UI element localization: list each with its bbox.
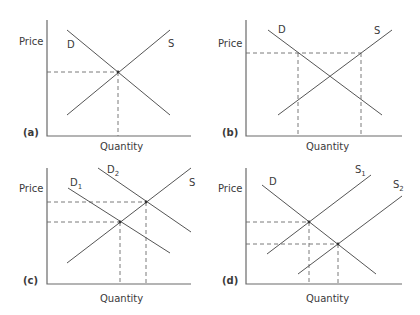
supply-curve-2 xyxy=(298,196,402,274)
curve-label: D1 xyxy=(70,177,82,191)
demand-curve xyxy=(268,30,382,115)
equilibrium-point xyxy=(337,243,340,246)
curve-label: D xyxy=(269,176,277,187)
diagram-canvas: DSPriceQuantity(a)DSPriceQuantity(b)D1D2… xyxy=(0,0,420,315)
x-axis-label: Quantity xyxy=(306,141,349,152)
y-axis-label: Price xyxy=(19,36,43,47)
curve-label-subscript: 2 xyxy=(115,170,119,178)
curve-label: S2 xyxy=(393,179,404,193)
curve-label-subscript: 2 xyxy=(399,185,403,193)
axes xyxy=(246,20,402,136)
y-axis-label: Price xyxy=(19,183,43,194)
curve-label-subscript: 1 xyxy=(361,170,365,178)
x-axis-label: Quantity xyxy=(306,293,349,304)
equilibrium-point xyxy=(145,201,148,204)
panel-label: (d) xyxy=(222,275,238,286)
curve-label: S xyxy=(374,25,380,36)
panel-label: (c) xyxy=(23,275,38,286)
supply-curve-1 xyxy=(267,175,371,254)
supply-demand-figure: DSPriceQuantity(a)DSPriceQuantity(b)D1D2… xyxy=(0,0,420,315)
curve-label: D xyxy=(67,39,75,50)
curve-label: S1 xyxy=(355,164,366,178)
curve-label: D xyxy=(278,24,286,35)
y-axis-label: Price xyxy=(218,183,242,194)
demand-curve-1 xyxy=(68,188,170,253)
axes xyxy=(47,168,191,284)
curve-label: S xyxy=(168,38,174,49)
panel-label: (a) xyxy=(23,127,39,138)
panel-c: D1D2SPriceQuantity(c) xyxy=(19,164,195,304)
panel-b: DSPriceQuantity(b) xyxy=(218,20,402,152)
equilibrium-point xyxy=(308,221,311,224)
x-axis-label: Quantity xyxy=(100,293,143,304)
curve-label-subscript: 1 xyxy=(78,183,82,191)
supply-curve xyxy=(278,30,392,115)
equilibrium-point xyxy=(117,71,120,74)
y-axis-label: Price xyxy=(218,38,242,49)
panel-d: DS1S2PriceQuantity(d) xyxy=(218,164,404,304)
x-axis-label: Quantity xyxy=(100,141,143,152)
demand-curve xyxy=(262,185,376,274)
equilibrium-point xyxy=(119,221,122,224)
panel-a: DSPriceQuantity(a) xyxy=(19,20,191,152)
panel-label: (b) xyxy=(222,127,238,138)
supply-curve xyxy=(67,168,191,263)
curve-label: S xyxy=(189,177,195,188)
